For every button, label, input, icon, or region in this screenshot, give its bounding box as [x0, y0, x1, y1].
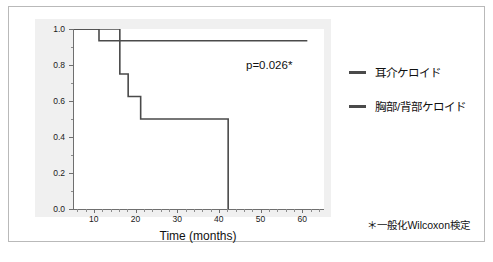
y-minor-tick: [71, 191, 74, 192]
y-tick-mark: [69, 65, 73, 66]
x-minor-tick: [277, 209, 278, 212]
x-minor-tick: [186, 209, 187, 212]
x-minor-tick: [119, 209, 120, 212]
x-minor-tick: [169, 209, 170, 212]
x-minor-tick: [252, 209, 253, 212]
legend-swatch-icon: [349, 71, 366, 74]
y-tick-mark: [69, 29, 73, 30]
y-minor-tick: [71, 155, 74, 156]
x-tick-label: 60: [297, 214, 306, 224]
y-tick-mark: [69, 209, 73, 210]
x-minor-tick: [319, 209, 320, 212]
x-minor-tick: [152, 209, 153, 212]
figure-frame: 0.00.20.40.60.81.0 102030405060 Keloid r…: [8, 6, 485, 242]
x-tick-mark: [261, 209, 262, 213]
x-minor-tick: [294, 209, 295, 212]
x-minor-tick: [77, 209, 78, 212]
x-minor-tick: [144, 209, 145, 212]
y-minor-tick: [71, 119, 74, 120]
x-minor-tick: [161, 209, 162, 212]
x-tick-mark: [136, 209, 137, 213]
y-tick-label: 0.4: [9, 132, 65, 142]
y-tick-mark: [69, 173, 73, 174]
x-tick-label: 10: [89, 214, 98, 224]
y-tick-mark: [69, 101, 73, 102]
legend-item-auricular: 耳介ケロイド: [349, 55, 479, 89]
x-minor-tick: [211, 209, 212, 212]
plot-area: [73, 29, 324, 210]
x-minor-tick: [102, 209, 103, 212]
x-minor-tick: [269, 209, 270, 212]
footnote: ＊一般化Wilcoxon検定: [367, 217, 470, 232]
legend-item-chest-back: 胸部/背部ケロイド: [349, 89, 479, 123]
x-tick-label: 50: [256, 214, 265, 224]
curve-series-1: [74, 29, 228, 209]
x-minor-tick: [86, 209, 87, 212]
x-tick-label: 30: [172, 214, 181, 224]
x-minor-tick: [111, 209, 112, 212]
survival-curves: [74, 29, 324, 209]
y-minor-tick: [71, 47, 74, 48]
x-minor-tick: [311, 209, 312, 212]
legend-swatch-icon: [349, 105, 366, 108]
legend-label: 耳介ケロイド: [375, 64, 441, 80]
legend: 耳介ケロイド 胸部/背部ケロイド: [349, 55, 479, 123]
x-minor-tick: [227, 209, 228, 212]
curve-series-0: [74, 29, 307, 41]
x-minor-tick: [286, 209, 287, 212]
x-tick-label: 20: [131, 214, 140, 224]
y-tick-label: 0.2: [9, 168, 65, 178]
x-tick-mark: [177, 209, 178, 213]
x-tick-label: 40: [214, 214, 223, 224]
y-minor-tick: [71, 83, 74, 84]
x-axis-label: Time (months): [73, 229, 323, 243]
x-minor-tick: [236, 209, 237, 212]
y-tick-label: 0.6: [9, 96, 65, 106]
x-minor-tick: [202, 209, 203, 212]
y-tick-label: 0.0: [9, 204, 65, 214]
x-minor-tick: [127, 209, 128, 212]
y-tick-mark: [69, 137, 73, 138]
x-tick-mark: [219, 209, 220, 213]
x-minor-tick: [194, 209, 195, 212]
x-tick-mark: [94, 209, 95, 213]
legend-label: 胸部/背部ケロイド: [375, 98, 466, 114]
y-tick-label: 0.8: [9, 60, 65, 70]
x-tick-mark: [302, 209, 303, 213]
x-minor-tick: [244, 209, 245, 212]
y-tick-label: 1.0: [9, 24, 65, 34]
p-value-annotation: p=0.026*: [246, 59, 292, 71]
